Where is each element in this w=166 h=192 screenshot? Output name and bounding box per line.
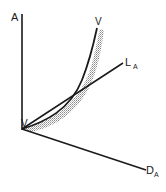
label-v-origin: V	[21, 118, 28, 129]
label-a-axis: A	[11, 11, 19, 23]
svg-text:L: L	[125, 56, 131, 68]
label-d-a: D A	[146, 164, 159, 178]
shaded-region	[24, 29, 104, 132]
svg-text:A: A	[133, 63, 138, 70]
axis-d-a	[22, 129, 146, 170]
label-v-top: V	[95, 16, 102, 27]
svg-text:A: A	[154, 171, 159, 178]
svg-text:D: D	[146, 164, 154, 176]
diagram-canvas: A V V L A D A	[0, 0, 166, 192]
label-l-a: L A	[125, 56, 138, 70]
